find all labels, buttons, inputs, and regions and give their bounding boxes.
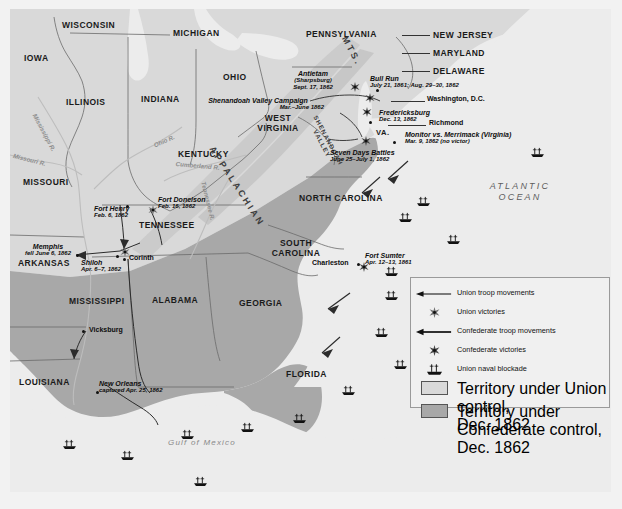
naval-blockade-ship-icon — [374, 327, 389, 338]
battle-label-fort-henry-name: Fort Henry — [94, 205, 129, 212]
confederate-territory-swatch-icon — [411, 403, 457, 418]
battle-label-seven-days-name: Seven Days Battles — [330, 149, 395, 156]
confederate-troop-movement-arrow-icon — [411, 328, 457, 336]
confederate-victory-marker-fredericksburg[interactable] — [362, 107, 371, 116]
confederate-victory-marker-bull-run[interactable] — [365, 93, 374, 102]
battle-label-fort-sumter-name: Fort Sumter — [365, 252, 405, 259]
state-label-alabama: ALABAMA — [152, 296, 198, 305]
state-label-tennessee: TENNESSEE — [139, 221, 195, 230]
state-label-indiana: INDIANA — [141, 95, 180, 104]
leader-line-richmond — [388, 125, 426, 126]
state-label-south-carolina: SOUTH CAROLINA — [264, 239, 328, 258]
battle-label-seven-days: Seven Days Battles June 25–July 1, 1862 — [330, 149, 395, 163]
battle-label-shiloh-name: Shiloh — [81, 259, 102, 266]
battle-label-fredericksburg-name: Fredericksburg — [379, 109, 430, 116]
ocean-label-atlantic: ATLANTIC OCEAN — [472, 181, 568, 204]
battle-label-new-orleans: New Orleans captured Apr. 25, 1862 — [99, 380, 162, 394]
battle-label-memphis-subtitle: fell June 6, 1862 — [18, 250, 78, 256]
battle-label-shenandoah-campaign: Shenandoah Valley Campaign Mar.–June 186… — [192, 97, 324, 111]
confederate-victory-star-icon — [411, 345, 457, 356]
naval-blockade-ship-icon — [530, 147, 545, 158]
ocean-label-atlantic-line2: OCEAN — [498, 192, 541, 202]
map-legend: Union troop movements Union victories Co… — [410, 277, 610, 408]
battle-label-fort-donelson-date: Feb. 16, 1862 — [158, 203, 205, 209]
civil-war-map: WISCONSIN MICHIGAN IOWA ILLINOIS INDIANA… — [10, 9, 611, 492]
state-label-maryland: MARYLAND — [433, 49, 485, 58]
battle-label-bull-run-date: July 21, 1861; Aug. 29–30, 1862 — [370, 82, 459, 88]
battle-label-fort-henry-date: Feb. 6, 1862 — [94, 212, 129, 218]
state-label-wisconsin: WISCONSIN — [62, 21, 115, 30]
confederate-victory-marker-seven-days[interactable] — [361, 136, 370, 145]
battle-label-memphis: Memphis fell June 6, 1862 — [18, 243, 78, 257]
city-label-corinth: Corinth — [129, 254, 154, 261]
state-label-georgia: GEORGIA — [239, 299, 282, 308]
legend-label-confederate-troop-movements: Confederate troop movements — [457, 327, 556, 336]
naval-blockade-ship-icon — [193, 476, 208, 487]
union-troop-movement-arrow-icon — [411, 290, 457, 298]
battle-label-fort-donelson: Fort Donelson Feb. 16, 1862 — [158, 196, 205, 210]
legend-row-confederate-victories: Confederate victories — [411, 341, 609, 360]
battle-label-bull-run-name: Bull Run — [370, 75, 399, 82]
legend-label-confederate-territory-line1: Territory under Confederate control, — [457, 403, 602, 438]
union-territory-swatch — [421, 381, 448, 395]
leader-line-new-jersey — [402, 35, 430, 36]
naval-blockade-ship-icon — [240, 422, 255, 433]
state-label-arkansas: ARKANSAS — [18, 259, 70, 268]
city-label-charleston: Charleston — [312, 259, 349, 266]
state-label-florida: FLORIDA — [286, 370, 327, 379]
union-victory-star-icon — [411, 307, 457, 318]
battle-label-new-orleans-subtitle: captured Apr. 25, 1862 — [99, 387, 162, 393]
leader-line-maryland — [402, 53, 430, 54]
battle-label-shenandoah-campaign-date: Mar.–June 1862 — [192, 104, 324, 110]
city-label-vicksburg: Vicksburg — [89, 326, 123, 333]
leader-line-washington — [391, 101, 425, 102]
battle-label-fort-sumter: Fort Sumter Apr. 12–13, 1861 — [365, 252, 412, 266]
state-label-louisiana: LOUISIANA — [19, 378, 70, 387]
legend-label-union-naval-blockade: Union naval blockade — [457, 365, 527, 374]
battle-label-fredericksburg-date: Dec. 13, 1862 — [379, 116, 430, 122]
battle-label-fort-donelson-name: Fort Donelson — [158, 196, 205, 203]
legend-row-confederate-troop-movements: Confederate troop movements — [411, 322, 609, 341]
state-label-north-carolina-line2: CAROLINA — [334, 193, 382, 203]
naval-blockade-ship-icon — [398, 212, 413, 223]
confederate-victory-marker-antietam[interactable] — [350, 82, 359, 91]
state-label-mississippi: MISSISSIPPI — [69, 297, 125, 306]
legend-label-union-victories: Union victories — [457, 308, 505, 317]
state-label-south-carolina-line2: CAROLINA — [272, 248, 320, 258]
state-label-illinois: ILLINOIS — [66, 98, 106, 107]
state-label-missouri: MISSOURI — [23, 178, 69, 187]
legend-label-union-troop-movements: Union troop movements — [457, 289, 534, 298]
union-victory-marker-shiloh[interactable] — [120, 247, 129, 256]
state-label-west-virginia: WEST VIRGINIA — [248, 114, 308, 133]
state-label-michigan: MICHIGAN — [173, 29, 220, 38]
state-label-virginia: VA. — [376, 129, 389, 137]
naval-blockade-ship-icon — [416, 196, 431, 207]
state-label-north-carolina: NORTH CAROLINA — [299, 194, 383, 203]
state-label-north-carolina-line1: NORTH — [299, 193, 331, 203]
naval-blockade-ship-icon — [120, 450, 135, 461]
map-screenshot: WISCONSIN MICHIGAN IOWA ILLINOIS INDIANA… — [0, 0, 622, 509]
legend-row-union-victories: Union victories — [411, 303, 609, 322]
naval-blockade-ship-icon — [341, 385, 356, 396]
battle-label-monitor-merrimack: Monitor vs. Merrimack (Virginia) Mar. 9,… — [405, 131, 511, 145]
naval-blockade-ship-icon — [62, 439, 77, 450]
city-label-washington-dc: Washington, D.C. — [427, 95, 485, 102]
state-label-west-virginia-line2: VIRGINIA — [257, 123, 298, 133]
battle-label-fredericksburg: Fredericksburg Dec. 13, 1862 — [379, 109, 430, 123]
state-label-west-virginia-line1: WEST — [265, 113, 291, 123]
naval-blockade-ship-icon — [384, 290, 399, 301]
legend-label-confederate-territory: Territory under Confederate control, Dec… — [457, 403, 609, 457]
naval-blockade-ship-icon — [384, 266, 399, 277]
battle-label-antietam-date: Sept. 17, 1862 — [282, 84, 344, 90]
union-territory-swatch-icon — [411, 380, 457, 395]
battle-label-fort-sumter-date: Apr. 12–13, 1861 — [365, 259, 412, 265]
battle-label-memphis-name: Memphis — [33, 243, 63, 250]
legend-row-union-troop-movements: Union troop movements — [411, 284, 609, 303]
naval-blockade-ship-icon — [446, 234, 461, 245]
battle-label-monitor-merrimack-date: Mar. 9, 1862 (no victor) — [405, 138, 511, 144]
battle-label-shiloh-date: Apr. 6–7, 1862 — [81, 266, 121, 272]
ocean-label-atlantic-line1: ATLANTIC — [490, 181, 550, 191]
city-label-richmond: Richmond — [429, 119, 463, 126]
battle-label-antietam-name: Antietam — [298, 70, 328, 77]
union-victory-marker-fort-donelson[interactable] — [148, 205, 157, 214]
